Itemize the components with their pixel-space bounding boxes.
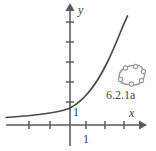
blob-vertex-dot bbox=[139, 78, 143, 82]
axes-group bbox=[6, 3, 147, 146]
figure-canvas: 1 1 y x 6.2.1a bbox=[0, 0, 156, 151]
x-axis-arrow-icon bbox=[139, 120, 147, 129]
y-intercept-tick-label: 1 bbox=[73, 105, 79, 119]
math-figure-exponential-graph: 1 1 y x 6.2.1a bbox=[0, 0, 156, 151]
blob-vertex-dot bbox=[129, 82, 133, 86]
closed-curve-blob-icon bbox=[118, 64, 145, 86]
x-unit-tick-label: 1 bbox=[83, 132, 89, 146]
y-axis-arrow-icon bbox=[65, 3, 74, 11]
x-axis-label: x bbox=[128, 106, 135, 120]
y-axis-label: y bbox=[77, 3, 84, 17]
blob-vertex-dot bbox=[123, 66, 127, 70]
figure-id-caption: 6.2.1a bbox=[106, 88, 136, 102]
blob-vertex-dot bbox=[118, 77, 122, 81]
blob-vertex-dot bbox=[141, 69, 145, 73]
blob-vertex-dot bbox=[133, 64, 137, 68]
